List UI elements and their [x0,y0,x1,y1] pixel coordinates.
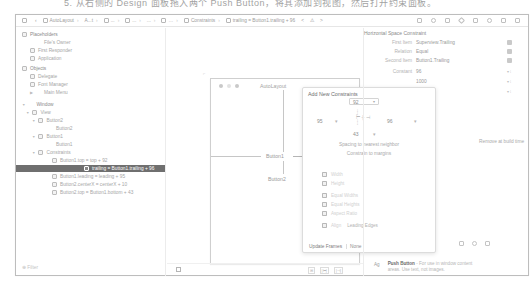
pin-icon[interactable]: |⊢| [320,267,329,274]
constraint-icon [52,190,57,195]
breadcrumb-view[interactable]: …› [161,18,177,23]
breadcrumb-xib[interactable]: ...› [125,18,141,23]
attributes-inspector: Horizontal Space Constraint First ItemSu… [363,28,529,276]
second-item-row[interactable]: Second ItemButton1.Trailing [364,58,449,63]
attributes-inspector-icon[interactable] [458,17,465,24]
identity-inspector-icon[interactable] [445,18,450,23]
bottom-spacing-field[interactable]: 43 [353,131,359,137]
breadcrumb-folder[interactable]: A...t› [85,18,98,23]
bindings-inspector-icon[interactable] [501,18,506,23]
effects-inspector-icon[interactable] [515,18,520,23]
back-arrow-icon[interactable]: ‹ [35,18,37,23]
outline-constraint-item[interactable]: Button2.top = Button1.bottom + 43 [52,189,133,196]
breadcrumb-constraints[interactable]: Constraints› [184,18,220,23]
canvas-corner-mark: ⌐ [203,71,205,76]
checkbox-icon[interactable] [322,223,327,228]
button2[interactable]: Button2 [268,176,286,182]
checkbox-icon[interactable] [322,172,327,177]
inspector-title: Horizontal Space Constraint [364,30,426,36]
outline-view[interactable]: ▼View [26,109,51,116]
grid-icon[interactable] [22,18,29,23]
size-inspector-icon[interactable] [473,18,478,23]
delegate-icon [30,74,35,79]
leading-constraint-line[interactable] [211,156,261,157]
checkbox-icon[interactable] [322,193,327,198]
width-checkbox[interactable]: Width [322,172,343,177]
align-icon[interactable]: ⊞ [308,267,315,274]
relation-row[interactable]: RelationEqual [364,49,428,54]
constraint-icon [226,18,231,23]
breadcrumb-project[interactable]: AutoLayout› [43,18,79,23]
outline-placeholders[interactable]: Placeholders [22,31,58,38]
outline-constraint-item[interactable]: Button1.top = top + 92 [52,157,107,164]
stepper-icon[interactable]: ▾ ⁞ [507,79,511,84]
outline-button1[interactable]: ▼Button1 [32,133,63,140]
button1[interactable]: Button1 [266,153,284,159]
xcode-window: ‹ AutoLayout› A...t› ...› ...› ...› …› C… [15,14,529,276]
resolve-layout-icon[interactable]: |⊣| [334,267,343,274]
outline-button1-cell[interactable]: Button1 [56,141,73,148]
font-manager-icon [30,82,35,87]
left-chevron-icon[interactable]: ▾ [335,118,338,124]
disclosure-triangle-icon[interactable]: ▼ [32,151,35,155]
outline-constraints[interactable]: ▼Constraints [32,149,71,156]
file-template-library-icon[interactable] [459,241,464,246]
next-issue-button[interactable]: > [320,18,323,23]
breadcrumb-file[interactable]: ...› [104,18,120,23]
objects-icon [22,66,27,71]
multiplier-row[interactable]: Multiplier1▾ ⁞ [364,89,419,94]
outline-main-menu[interactable]: ▶Main Menu [30,89,68,96]
popup-button-icon[interactable] [507,40,512,45]
button-icon [38,118,43,123]
media-library-icon[interactable] [485,241,490,246]
equal-widths-checkbox[interactable]: Equal Widths [322,193,358,198]
library-item-push-button[interactable]: Ag Push Button - For use in window conte… [374,261,483,273]
height-checkbox[interactable]: Height [322,181,344,186]
left-spacing-field[interactable]: 95 [317,118,323,124]
popup-button-icon[interactable] [507,58,512,63]
remove-at-build-time-checkbox[interactable]: Remove at build time [479,139,524,144]
popup-button-icon[interactable] [507,49,512,54]
outline-constraint-item[interactable]: Button2.centerX = centerX + 10 [52,181,127,188]
file-inspector-icon[interactable] [417,18,422,23]
disclosure-triangle-icon[interactable]: ▼ [32,135,35,139]
disclosure-triangle-icon[interactable]: ▼ [22,103,25,107]
outline-files-owner[interactable]: File's Owner [44,39,71,46]
outline-button2[interactable]: ▼Button2 [32,117,63,124]
breadcrumb-constraint[interactable]: trailing = Button1.trailing + 96 [226,18,295,23]
disclosure-triangle-icon[interactable]: ▼ [26,111,29,115]
top-constraint-line[interactable] [283,90,284,152]
outline-constraint-item-selected[interactable]: trailing = Button1.trailing + 96 [16,165,165,172]
outline-objects[interactable]: Objects [22,65,46,72]
priority-row[interactable]: Priority1000▾ ⁞ [364,79,427,84]
stepper-icon[interactable]: ▾ ⁞ [507,89,511,94]
help-inspector-icon[interactable] [431,18,436,23]
outline-first-responder[interactable]: First Responder [30,47,72,54]
disclosure-triangle-icon[interactable]: ▶ [30,91,33,95]
object-library-icon[interactable] [472,241,477,246]
checkbox-icon[interactable] [322,181,327,186]
warning-icon[interactable]: ⚠ [310,18,314,23]
outline-button2-cell[interactable]: Button2 [56,125,73,132]
aspect-ratio-checkbox[interactable]: Aspect Ratio [322,211,357,216]
constant-row[interactable]: Constant96▾ ⁞ [364,69,421,74]
connections-inspector-icon[interactable] [487,18,492,23]
outline-application[interactable]: Application [30,55,61,62]
outline-filter-field[interactable]: ⊕ Filter [22,265,38,270]
document-outline: Placeholders File's Owner First Responde… [16,28,166,276]
checkbox-icon[interactable] [322,211,327,216]
equal-heights-checkbox[interactable]: Equal Heights [322,202,360,207]
disclosure-triangle-icon[interactable]: ▼ [32,119,35,123]
first-item-row[interactable]: First ItemSuperview.Trailing [364,40,455,45]
stepper-icon[interactable]: ▾ ⁞ [507,69,511,74]
outline-font-manager[interactable]: Font Manager [30,81,68,88]
checkbox-icon[interactable] [322,202,327,207]
document-outline-toggle-icon[interactable] [176,267,181,272]
breadcrumb-window[interactable]: ...› [147,18,156,23]
update-frames-select[interactable]: None [346,244,361,249]
outline-window[interactable]: ▼Window [22,101,54,108]
outline-delegate[interactable]: Delegate [30,73,57,80]
vertical-spacing-constraint-line[interactable] [283,161,284,174]
outline-constraint-item[interactable]: Button1.leading = leading + 95 [52,173,125,180]
prev-issue-button[interactable]: < [301,18,304,23]
